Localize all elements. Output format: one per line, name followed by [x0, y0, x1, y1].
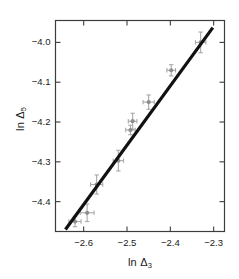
x-axis-label: ln Δ3 — [55, 256, 225, 270]
y-tick-label-4: −4.4 — [17, 196, 51, 207]
y-tick-label-3: −4.3 — [17, 156, 51, 167]
x-tick-label-2: −2.4 — [153, 237, 187, 248]
x-tick-label-0: −2.6 — [67, 237, 101, 248]
fit-line — [65, 28, 212, 230]
x-tick-label-3: −2.3 — [197, 237, 231, 248]
fit-line-segment — [65, 28, 212, 230]
data-point-6 — [147, 100, 151, 104]
data-point-7 — [169, 68, 173, 72]
y-axis-label-subscript: 5 — [19, 107, 28, 111]
y-tick-label-0: −4.0 — [17, 36, 51, 47]
x-axis-label-base: ln Δ — [128, 256, 148, 268]
data-point-4 — [128, 128, 132, 132]
y-tick-label-2: −4.2 — [17, 116, 51, 127]
y-tick-label-1: −4.1 — [17, 76, 51, 87]
x-tick-label-1: −2.5 — [110, 237, 144, 248]
x-axis-label-subscript: 3 — [148, 261, 152, 270]
chart-figure: ln Δ5 ln Δ3 −2.6−2.5−2.4−2.3−4.0−4.1−4.2… — [0, 0, 239, 279]
data-point-5 — [131, 119, 135, 123]
data-point-1 — [85, 211, 89, 215]
